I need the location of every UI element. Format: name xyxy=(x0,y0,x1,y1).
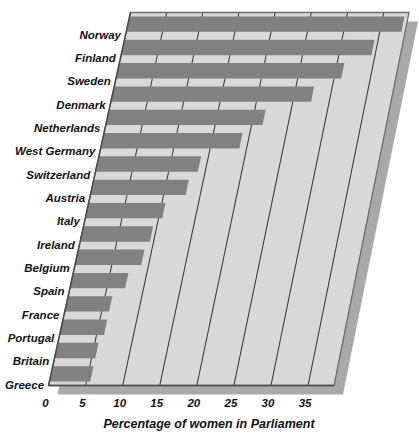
x-axis-tick-labels-group: 05101520253035 xyxy=(42,397,312,409)
bar xyxy=(111,86,314,101)
x-tick-label: 20 xyxy=(186,397,200,409)
bar-chart-figure: NorwayFinlandSwedenDenmarkNetherlandsWes… xyxy=(0,0,419,439)
category-label: Greece xyxy=(5,379,45,391)
bar xyxy=(49,366,93,381)
bar xyxy=(80,226,153,241)
category-label: Belgium xyxy=(24,262,69,274)
bar xyxy=(75,250,145,265)
x-tick-label: 30 xyxy=(262,397,275,409)
category-label: Switzerland xyxy=(26,169,91,181)
bar xyxy=(90,180,188,195)
bar xyxy=(121,40,374,55)
category-label: West Germany xyxy=(15,145,96,157)
bar xyxy=(65,296,113,311)
category-label: Sweden xyxy=(67,75,110,87)
bar xyxy=(70,273,129,288)
category-label: Austria xyxy=(44,192,85,204)
bar xyxy=(54,343,98,358)
x-tick-label: 25 xyxy=(223,397,237,409)
x-tick-label: 5 xyxy=(79,397,86,409)
bar xyxy=(95,156,201,171)
category-label: Portugal xyxy=(8,332,55,344)
x-tick-label: 15 xyxy=(150,397,163,409)
category-label: Spain xyxy=(33,285,64,297)
chart-canvas: NorwayFinlandSwedenDenmarkNetherlandsWes… xyxy=(0,0,419,439)
category-label: France xyxy=(22,309,60,321)
category-label: Britain xyxy=(13,355,49,367)
category-label: Denmark xyxy=(56,99,106,111)
x-axis-caption: Percentage of women in Parliament xyxy=(103,417,315,431)
category-label: Norway xyxy=(79,29,121,41)
bar xyxy=(116,63,344,78)
x-tick-label: 10 xyxy=(113,397,126,409)
x-tick-label: 0 xyxy=(42,397,49,409)
bar xyxy=(60,320,108,335)
bar xyxy=(101,133,243,148)
bar xyxy=(85,203,165,218)
bar xyxy=(126,16,404,31)
category-label: Netherlands xyxy=(34,122,100,134)
x-tick-label: 35 xyxy=(299,397,312,409)
category-label: Finland xyxy=(75,52,117,64)
category-label: Italy xyxy=(57,215,81,227)
bar xyxy=(106,110,266,125)
category-label: Ireland xyxy=(37,239,76,251)
